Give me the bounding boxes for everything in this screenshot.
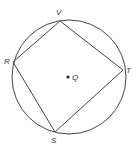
vertex-label-t: T (126, 66, 132, 75)
vertex-label-r: R (4, 57, 10, 66)
vertex-label-s: S (51, 136, 57, 145)
diagram-canvas: V R T S Q (0, 0, 138, 148)
center-point-q (66, 75, 69, 78)
vertex-label-v: V (56, 8, 62, 17)
circle-diagram: V R T S Q (0, 0, 138, 148)
center-label-q: Q (72, 73, 78, 82)
